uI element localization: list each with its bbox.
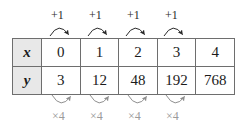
top-arrow-label-3: +1	[127, 9, 140, 21]
y-value-cell-1: 3	[42, 67, 81, 95]
bottom-arrow-label-4: ×4	[166, 110, 179, 122]
row-variable-x: x	[13, 39, 42, 67]
bottom-arrow-label-3: ×4	[128, 110, 141, 122]
x-value-cell-5: 4	[196, 39, 235, 67]
bottom-arrow-arcs	[52, 95, 185, 103]
x-value-cell-4: 3	[157, 39, 196, 67]
y-value-cell-3: 48	[119, 67, 158, 95]
table-row-y: y 3 12 48 192 768	[13, 67, 235, 95]
y-value-cell-2: 12	[80, 67, 119, 95]
top-arrow-arcs	[50, 28, 183, 36]
x-value-cell-3: 2	[119, 39, 158, 67]
x-value-cell-1: 0	[42, 39, 81, 67]
y-value-cell-4: 192	[157, 67, 196, 95]
diagram-canvas: +1 +1 +1 +1 ×4 ×4 ×4 ×4 x 0 1 2 3 4 y 3 …	[0, 0, 237, 131]
top-arrow-label-4: +1	[165, 9, 178, 21]
row-variable-y: y	[13, 67, 42, 95]
value-table: x 0 1 2 3 4 y 3 12 48 192 768	[12, 38, 235, 95]
top-arrow-label-1: +1	[51, 9, 64, 21]
top-arrow-label-2: +1	[89, 9, 102, 21]
bottom-arrow-label-2: ×4	[90, 110, 103, 122]
x-value-cell-2: 1	[80, 39, 119, 67]
bottom-arrow-label-1: ×4	[52, 110, 65, 122]
table-row-x: x 0 1 2 3 4	[13, 39, 235, 67]
y-value-cell-5: 768	[196, 67, 235, 95]
